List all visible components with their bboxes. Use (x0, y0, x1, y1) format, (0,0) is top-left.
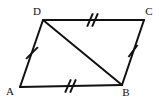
vertex-label-A: A (6, 85, 14, 97)
vertex-label-D: D (33, 5, 41, 17)
vertex-label-C: C (145, 5, 152, 17)
geometry-figure: D C A B (0, 0, 159, 105)
vertex-label-B: B (122, 86, 129, 98)
figure-background (0, 0, 159, 105)
geometry-canvas: D C A B (0, 0, 159, 105)
